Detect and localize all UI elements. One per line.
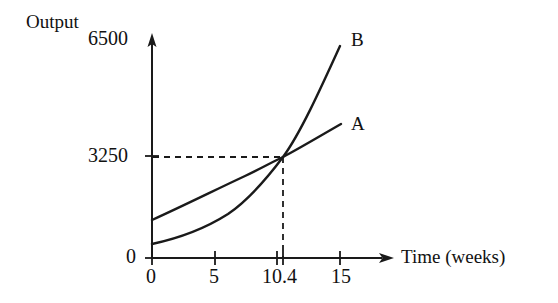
y-axis	[148, 33, 157, 258]
y-tick-label-3250: 3250	[88, 145, 128, 165]
x-tick-label-0: 0	[146, 266, 156, 286]
intersection-guides	[153, 157, 283, 257]
series-label-a: A	[351, 114, 365, 133]
y-axis-title: Output	[26, 12, 79, 31]
y-tick-label-6500: 6500	[88, 28, 128, 48]
x-axis	[152, 253, 394, 263]
x-tick-label-10-4: 10.4	[262, 266, 297, 286]
series-line-b	[152, 46, 340, 244]
series-label-b: B	[351, 30, 364, 49]
x-tick-label-15: 15	[331, 266, 351, 286]
chart-figure: Output 6500 3250 0 0 5 10.4 15 Time (wee…	[0, 0, 558, 303]
x-tick-label-5: 5	[209, 266, 219, 286]
series-line-a	[152, 124, 341, 220]
y-tick-label-0: 0	[126, 246, 136, 266]
x-axis-title: Time (weeks)	[401, 247, 505, 266]
